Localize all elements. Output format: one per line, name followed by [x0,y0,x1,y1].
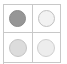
grid-cell-bottom-right[interactable] [33,33,62,63]
grid-cell-bottom-left[interactable] [4,33,33,63]
circle-swatch-light-icon[interactable] [38,10,55,27]
circle-swatch-medium-light-icon[interactable] [9,39,27,57]
circle-swatch-grid [3,4,61,64]
circle-swatch-lightest-icon[interactable] [37,39,55,57]
circle-swatch-filled-dark-icon[interactable] [9,10,26,27]
grid-cell-top-right[interactable] [33,5,62,33]
grid-cell-top-left[interactable] [4,5,33,33]
swatch-grid-widget [0,0,67,64]
